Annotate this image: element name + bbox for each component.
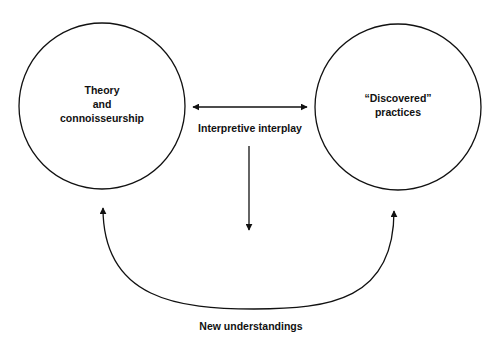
- practices-line-2: practices: [348, 105, 448, 119]
- theory-line-3: connoisseurship: [52, 111, 152, 125]
- diagram-canvas: [0, 0, 497, 342]
- new-understandings-label: New understandings: [191, 319, 311, 333]
- theory-label: Theory and connoisseurship: [52, 83, 152, 125]
- theory-line-1: Theory: [52, 83, 152, 97]
- interplay-label: Interpretive interplay: [190, 121, 310, 135]
- theory-line-2: and: [52, 97, 152, 111]
- practices-label: “Discovered” practices: [348, 91, 448, 119]
- practices-line-1: “Discovered”: [348, 91, 448, 105]
